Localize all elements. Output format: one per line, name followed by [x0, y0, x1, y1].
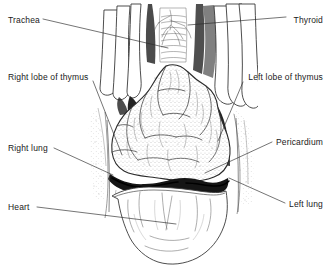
- label-right-lung: Right lung: [8, 143, 48, 153]
- label-heart: Heart: [8, 202, 30, 212]
- trachea-structure: [159, 8, 187, 62]
- label-left-lung: Left lung: [289, 199, 323, 209]
- label-pericardium: Pericardium: [276, 137, 323, 147]
- label-thyroid: Thyroid: [294, 15, 323, 25]
- label-left-lobe-of-thymus: Left lobe of thymus: [248, 72, 323, 82]
- anatomical-figure: Trachea Thyroid Right lobe of thymus Lef…: [0, 0, 331, 274]
- label-trachea: Trachea: [8, 15, 40, 25]
- label-right-lobe-of-thymus: Right lobe of thymus: [8, 72, 88, 82]
